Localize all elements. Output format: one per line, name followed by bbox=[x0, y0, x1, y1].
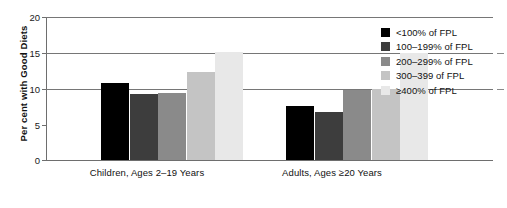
legend-swatch-icon bbox=[381, 86, 390, 95]
bar bbox=[286, 106, 314, 160]
y-tick-label-5: 5 bbox=[35, 120, 40, 131]
bar bbox=[315, 112, 343, 160]
legend-item-label: ≥400% of FPL bbox=[396, 85, 457, 96]
bar bbox=[158, 93, 186, 160]
legend-item-label: 200–299% of FPL bbox=[396, 56, 473, 67]
legend-item-label: <100% of FPL bbox=[396, 27, 457, 38]
edge-tick-mark bbox=[497, 53, 504, 54]
edge-tick-mark bbox=[497, 89, 504, 90]
bar bbox=[187, 72, 215, 160]
gridline-20: 20 bbox=[46, 17, 493, 18]
legend: <100% of FPL 100–199% of FPL 200–299% of… bbox=[381, 26, 473, 98]
bar bbox=[372, 89, 400, 160]
legend-swatch-icon bbox=[381, 42, 390, 51]
bar bbox=[343, 90, 371, 160]
legend-swatch-icon bbox=[381, 28, 390, 37]
bar bbox=[215, 52, 243, 160]
legend-item: 300–399 of FPL bbox=[381, 69, 473, 82]
legend-item: 200–299% of FPL bbox=[381, 55, 473, 68]
y-tick-label-15: 15 bbox=[29, 48, 40, 59]
y-tick-label-10: 10 bbox=[29, 84, 40, 95]
legend-swatch-icon bbox=[381, 57, 390, 66]
bar bbox=[130, 94, 158, 160]
legend-item-label: 300–399 of FPL bbox=[396, 70, 464, 81]
category-label-children: Children, Ages 2–19 Years bbox=[90, 167, 204, 178]
category-label-adults: Adults, Ages ≥20 Years bbox=[282, 167, 382, 178]
bar bbox=[101, 83, 129, 160]
y-tick-label-20: 20 bbox=[29, 12, 40, 23]
legend-item: 100–199% of FPL bbox=[381, 40, 473, 53]
legend-swatch-icon bbox=[381, 71, 390, 80]
gridline-0: 0 bbox=[46, 160, 493, 161]
legend-item-label: 100–199% of FPL bbox=[396, 41, 473, 52]
legend-item: <100% of FPL bbox=[381, 26, 473, 39]
y-axis-title: Per cent with Good Diets bbox=[18, 14, 29, 154]
legend-item: ≥400% of FPL bbox=[381, 84, 473, 97]
y-tick-label-0: 0 bbox=[35, 155, 40, 166]
bar-chart: Per cent with Good Diets 20 15 10 5 0 Ch… bbox=[0, 0, 507, 208]
